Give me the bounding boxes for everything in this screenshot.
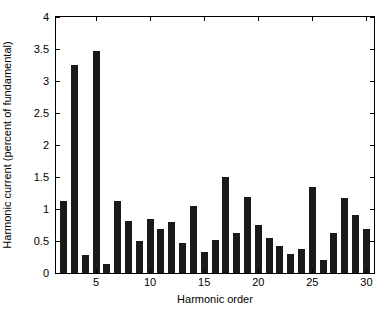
y-axis-tick [56,177,60,178]
x-axis-tick-label: 30 [360,277,372,288]
bar [212,240,219,273]
x-axis-tick [258,269,259,273]
bar [136,241,143,273]
y-axis-tick-label: 0 [43,268,49,279]
bar [93,51,100,273]
bar [114,201,121,273]
y-axis-tick-label: 4 [43,12,49,23]
bar [71,65,78,273]
x-axis-tick-label: 15 [198,277,210,288]
bar [233,233,240,273]
bar [287,254,294,273]
y-axis-tick [56,49,60,50]
x-axis-tick-top [204,17,205,21]
y-axis-tick-label: 1.5 [34,172,49,183]
y-axis-tick [56,209,60,210]
x-axis-tick-top [150,17,151,21]
y-axis-tick-label: 3 [43,76,49,87]
bar [147,219,154,273]
x-axis-tick [204,269,205,273]
x-axis-tick-label: 25 [306,277,318,288]
bar [330,233,337,273]
y-axis-tick [56,273,60,274]
y-axis-tick-right [370,273,374,274]
y-axis-tick [56,17,60,18]
y-axis-tick-label: 1 [43,204,49,215]
bar [244,197,251,273]
bar [276,246,283,273]
y-axis-tick [56,81,60,82]
bar [352,215,359,273]
y-axis-tick-right [370,113,374,114]
x-axis-title: Harmonic order [55,294,375,305]
y-axis-tick-label: 0.5 [34,236,49,247]
bar [125,221,132,273]
bar [309,187,316,273]
y-axis-tick-right [370,81,374,82]
y-axis-title: Harmonic current (percent of fundamental… [0,16,14,274]
bar [363,229,370,273]
y-axis-tick-right [370,209,374,210]
bar [255,225,262,273]
y-axis-tick [56,113,60,114]
x-axis-tick [366,269,367,273]
y-axis-tick-label: 2.5 [34,108,49,119]
x-axis-tick [96,269,97,273]
y-axis-tick-right [370,49,374,50]
bar [266,238,273,273]
bar [157,229,164,273]
x-axis-tick-top [258,17,259,21]
bar [190,206,197,273]
x-axis-tick [150,269,151,273]
y-axis-tick-right [370,17,374,18]
y-axis-tick-right [370,177,374,178]
x-axis-tick-label: 5 [93,277,99,288]
plot-area: 00.511.522.533.5451015202530 [55,16,375,274]
x-axis-tick-top [96,17,97,21]
bar [179,243,186,273]
y-axis-tick [56,145,60,146]
bar [320,260,327,273]
bar [60,201,67,273]
bar [341,198,348,273]
bar [168,222,175,273]
x-axis-tick-top [312,17,313,21]
y-axis-tick-right [370,145,374,146]
x-axis-tick-label: 10 [144,277,156,288]
x-axis-tick-label: 20 [252,277,264,288]
bar [298,249,305,273]
y-axis-tick-label: 3.5 [34,44,49,55]
bar [82,255,89,273]
bar [103,264,110,273]
x-axis-tick-top [366,17,367,21]
harmonic-current-bar-chart: Harmonic current (percent of fundamental… [0,0,388,314]
y-axis-tick [56,241,60,242]
y-axis-tick-right [370,241,374,242]
bar [222,177,229,273]
bars-layer [56,17,374,273]
y-axis-tick-label: 2 [43,140,49,151]
x-axis-tick [312,269,313,273]
